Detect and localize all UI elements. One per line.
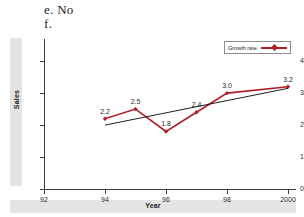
data-point-label: 2.2	[100, 108, 110, 115]
chart-legend: Growth rate	[224, 41, 291, 54]
data-point-label: 2.5	[131, 98, 141, 105]
data-point-label: 3.2	[283, 76, 293, 83]
data-point-label: 2.4	[192, 101, 202, 108]
legend-marker-icon	[271, 44, 278, 51]
data-point-label: 3.0	[222, 82, 232, 89]
legend-label: Growth rate	[228, 45, 257, 51]
answer-line-f: f.	[44, 16, 52, 32]
legend-swatch-growth-rate	[261, 44, 287, 51]
line-chart: Sales Year 01234 929496982000 2.22.51.82…	[0, 34, 304, 217]
data-point-label: 1.8	[161, 120, 171, 127]
plot-area	[0, 34, 304, 217]
data-point-marker	[103, 116, 107, 120]
